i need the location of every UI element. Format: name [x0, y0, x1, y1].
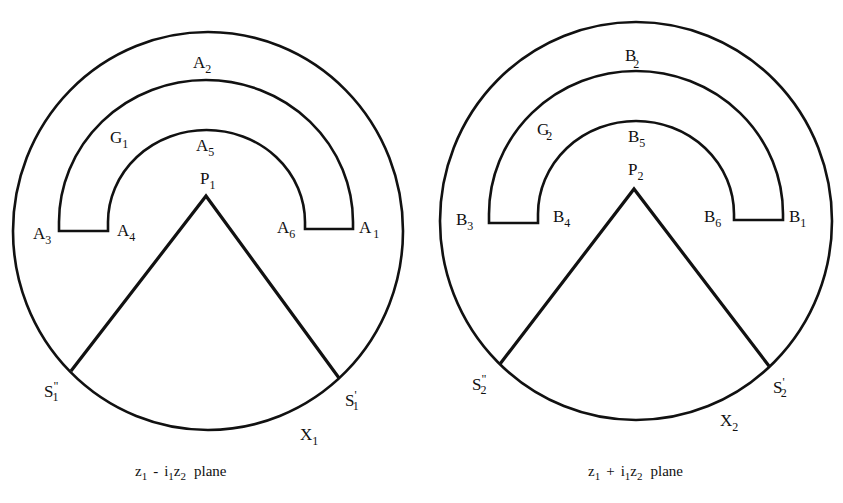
label-p2: P2: [628, 160, 643, 183]
label-s2-double-prime: S"2: [472, 372, 486, 397]
right-plane-caption: z1+i1z2plane: [588, 463, 683, 482]
label-b3: B3: [456, 210, 473, 233]
label-b2: B2: [625, 46, 639, 71]
label-x1: X1: [300, 425, 318, 448]
label-g2: G2: [537, 120, 552, 143]
label-s1-prime: S'1: [345, 388, 359, 413]
label-a3: A3: [33, 224, 51, 247]
label-a6: A6: [277, 218, 295, 241]
left-wedge-lines: [71, 196, 339, 378]
label-b6: B6: [704, 207, 721, 230]
label-b5: B5: [628, 127, 645, 150]
left-plane-caption: z1-i1z2plane: [135, 463, 227, 482]
label-a1: A1: [359, 218, 379, 241]
right-plane-panel: B2 G2 B5 P2 B3 B4 B6 B1 S"2 S'2 X2 z1+i1…: [440, 22, 832, 482]
left-plane-panel: A2 G1 A5 P1 A3 A4 A6 A1 S"1 S'1 X1 z1-i1…: [13, 32, 403, 482]
label-a5: A5: [196, 136, 214, 159]
label-a4: A4: [117, 221, 135, 244]
right-wedge-lines: [500, 189, 769, 366]
label-p1: P1: [200, 169, 215, 192]
label-g1: G1: [110, 128, 128, 151]
right-region-g2: [489, 71, 783, 223]
label-b1: B1: [789, 207, 806, 230]
label-s1-double-prime: S"1: [44, 379, 58, 404]
left-region-g1: [59, 80, 353, 231]
label-s2-prime: S'2: [773, 375, 787, 400]
label-a2: A2: [193, 53, 211, 76]
diagram-canvas: A2 G1 A5 P1 A3 A4 A6 A1 S"1 S'1 X1 z1-i1…: [0, 0, 843, 503]
label-x2: X2: [720, 411, 738, 434]
label-b4: B4: [553, 207, 570, 230]
